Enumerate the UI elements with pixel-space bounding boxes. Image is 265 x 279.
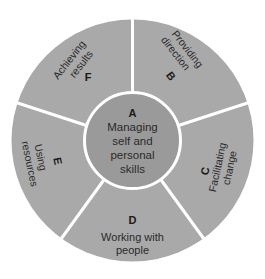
- segment-d-letter: D: [129, 214, 137, 226]
- center-line-2: self and: [112, 135, 152, 147]
- segment-f-letter: F: [85, 71, 92, 83]
- center-line-3: personal: [110, 149, 154, 161]
- center-line-1: Managing: [107, 121, 158, 133]
- center-letter: A: [129, 107, 137, 119]
- segment-d-line-2: people: [116, 244, 149, 256]
- competency-wheel-diagram: A Managing self and personal skills Prov…: [0, 0, 265, 279]
- center-line-4: skills: [120, 163, 145, 175]
- segment-d-line-1: Working with: [101, 231, 164, 243]
